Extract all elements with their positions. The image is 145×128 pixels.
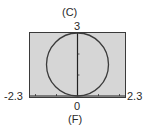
y-max-tick-label: 3 (74, 21, 80, 32)
figure-bottom-label: (F) (68, 114, 82, 125)
figure-top-label: (C) (62, 7, 77, 18)
x-max-tick-label: 2.3 (127, 91, 142, 102)
x-min-tick-label: -2.3 (4, 91, 23, 102)
x-origin-tick-label: 0 (74, 101, 80, 112)
circle-plot (29, 32, 126, 98)
